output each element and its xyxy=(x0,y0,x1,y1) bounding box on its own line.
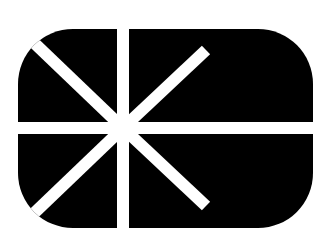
logo xyxy=(0,0,335,245)
horizontal-stripe xyxy=(10,122,330,134)
